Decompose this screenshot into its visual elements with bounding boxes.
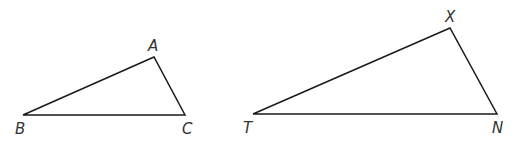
vertex-label-n: N [492,119,503,137]
vertex-label-c: C [182,120,193,138]
vertex-label-x: X [444,8,456,26]
triangle-diagram: A B C X T N [0,0,517,143]
triangle-txn [253,28,497,114]
vertex-label-t: T [243,119,254,137]
vertex-label-b: B [15,120,25,138]
triangle-abc [23,57,185,115]
vertex-label-a: A [147,37,158,55]
